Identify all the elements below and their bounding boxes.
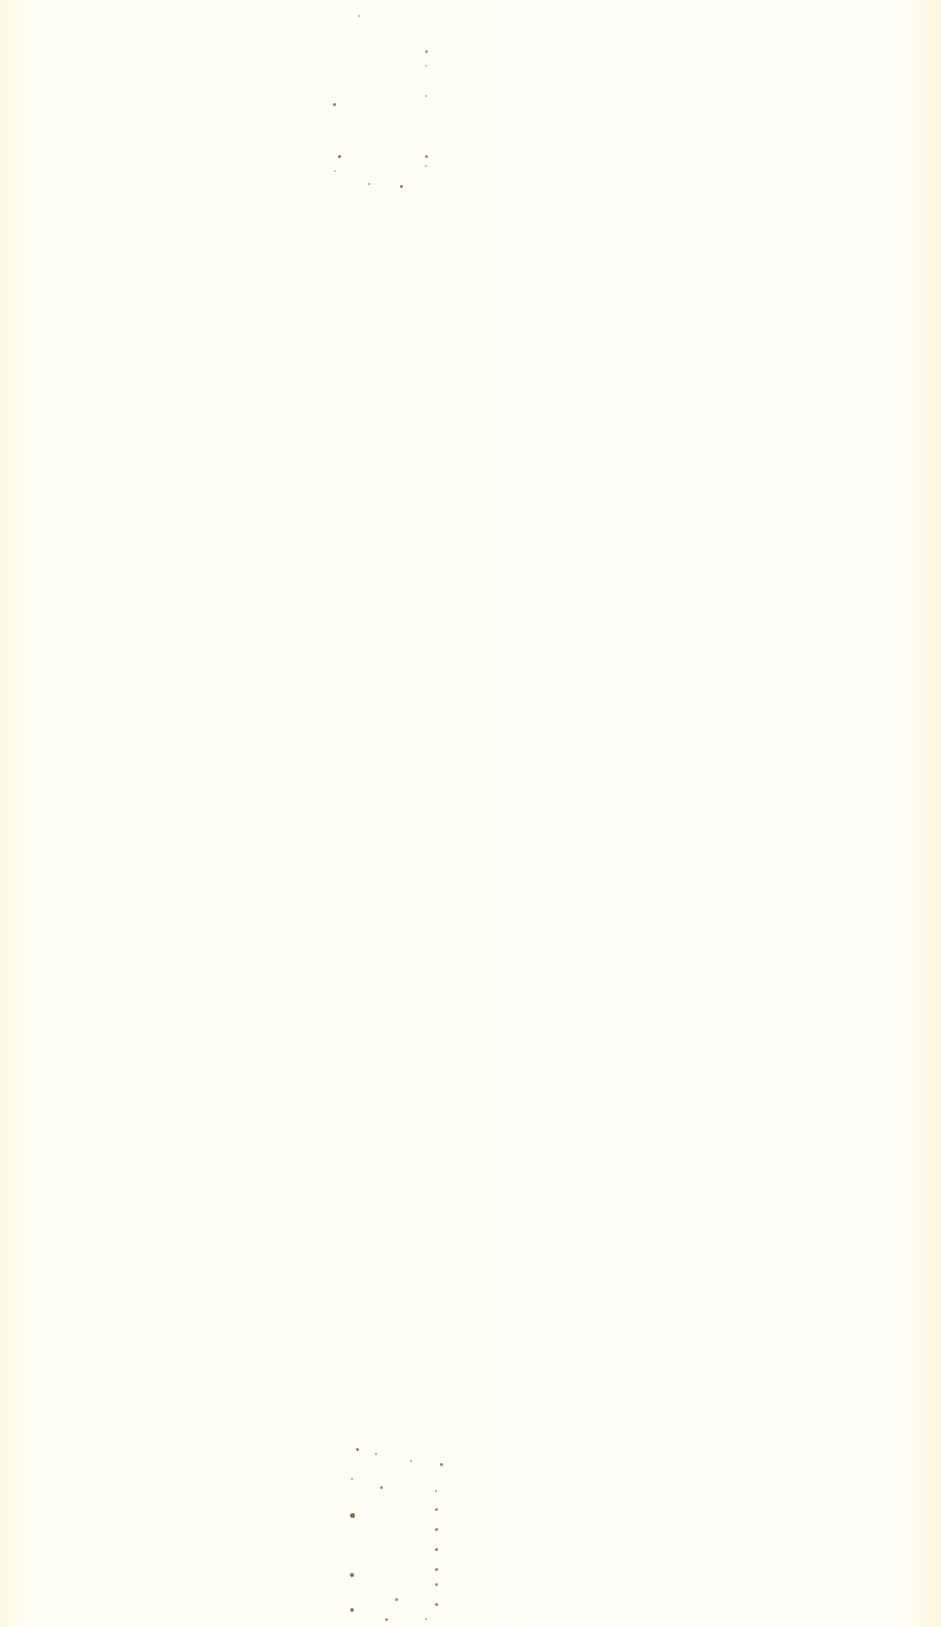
speck xyxy=(435,1490,437,1492)
speck xyxy=(435,1603,438,1606)
bottom-binding-mark xyxy=(350,1448,460,1627)
speck xyxy=(410,1460,412,1462)
speck xyxy=(425,165,427,167)
speck xyxy=(334,170,336,172)
speck xyxy=(358,15,360,17)
speck xyxy=(440,1463,443,1466)
speck xyxy=(435,1508,438,1511)
speck xyxy=(435,1583,438,1586)
speck xyxy=(338,155,341,158)
top-binding-mark xyxy=(318,10,428,195)
speck xyxy=(425,50,428,53)
speck xyxy=(425,1618,427,1620)
blank-page xyxy=(0,0,941,1627)
speck xyxy=(333,103,336,106)
speck xyxy=(425,95,427,97)
speck xyxy=(375,1453,377,1455)
speck xyxy=(435,1548,438,1551)
speck xyxy=(435,1568,438,1571)
speck xyxy=(368,183,370,185)
speck xyxy=(350,1513,355,1518)
speck xyxy=(380,1486,383,1489)
speck xyxy=(350,1608,354,1612)
speck xyxy=(351,1478,353,1480)
speck xyxy=(356,1448,359,1451)
speck xyxy=(435,1528,438,1531)
speck xyxy=(400,185,403,188)
speck xyxy=(425,155,428,158)
speck xyxy=(350,1573,354,1577)
speck xyxy=(395,1598,398,1601)
speck xyxy=(385,1618,388,1621)
speck xyxy=(425,65,427,67)
